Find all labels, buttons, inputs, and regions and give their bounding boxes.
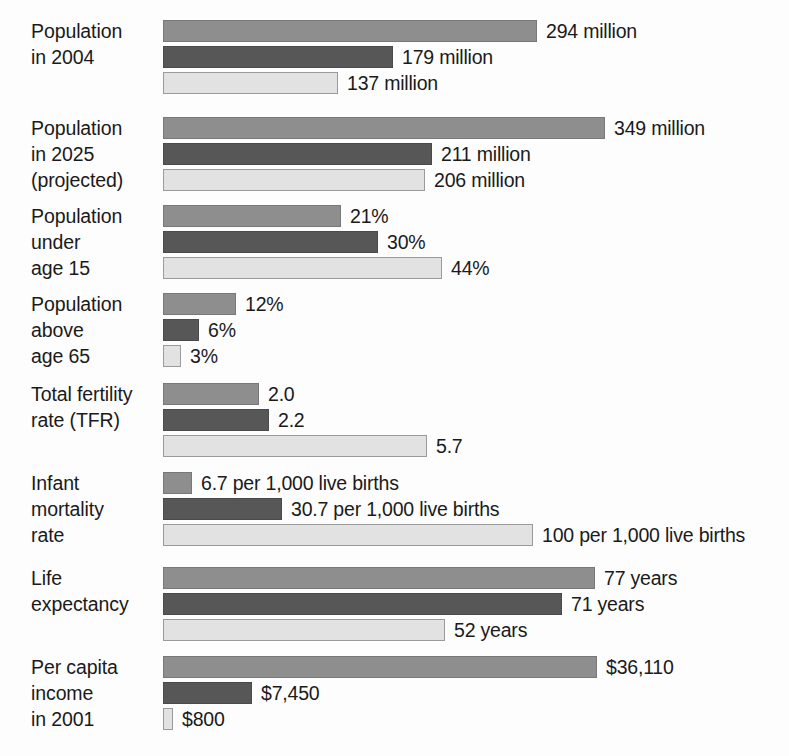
bar-value-label: 21% bbox=[350, 204, 388, 228]
bar-value-label: 2.0 bbox=[268, 382, 295, 406]
bar-value-label: 77 years bbox=[604, 566, 677, 590]
bar-series-1 bbox=[163, 293, 236, 315]
bar-value-label: 294 million bbox=[546, 19, 637, 43]
bar-value-label: 2.2 bbox=[278, 408, 305, 432]
bar-series-3 bbox=[163, 169, 425, 191]
bar-series-2 bbox=[163, 593, 562, 615]
bar-series-1 bbox=[163, 117, 605, 139]
bar-series-2 bbox=[163, 46, 393, 68]
bar-series-1 bbox=[163, 472, 192, 494]
bar-value-label: 44% bbox=[451, 256, 489, 280]
bar-value-label: $800 bbox=[182, 707, 225, 731]
bar-value-label: 12% bbox=[245, 292, 283, 316]
bar-value-label: 179 million bbox=[402, 45, 493, 69]
bar-series-2 bbox=[163, 498, 282, 520]
category-label: Per capita income in 2001 bbox=[31, 654, 157, 732]
bar-value-label: $36,110 bbox=[606, 655, 674, 679]
bar-value-label: 349 million bbox=[614, 116, 705, 140]
bar-value-label: 6.7 per 1,000 live births bbox=[201, 471, 399, 495]
bar-series-2 bbox=[163, 682, 252, 704]
bar-series-1 bbox=[163, 205, 341, 227]
bar-series-3 bbox=[163, 708, 173, 730]
category-label: Life expectancy bbox=[31, 565, 157, 617]
bar-value-label: 211 million bbox=[441, 142, 531, 166]
bar-series-3 bbox=[163, 345, 181, 367]
bar-series-2 bbox=[163, 409, 269, 431]
category-label: Infant mortality rate bbox=[31, 470, 157, 548]
bar-series-1 bbox=[163, 383, 259, 405]
bar-value-label: 100 per 1,000 live births bbox=[542, 523, 745, 547]
category-label: Population above age 65 bbox=[31, 291, 157, 369]
bar-value-label: 206 million bbox=[434, 168, 525, 192]
bar-value-label: 3% bbox=[190, 344, 218, 368]
category-label: Population in 2025 (projected) bbox=[31, 115, 157, 193]
bar-value-label: 6% bbox=[208, 318, 236, 342]
bar-series-2 bbox=[163, 143, 432, 165]
category-label: Population in 2004 bbox=[31, 18, 157, 70]
bar-series-1 bbox=[163, 567, 595, 589]
bar-series-3 bbox=[163, 72, 338, 94]
category-label: Total fertility rate (TFR) bbox=[31, 381, 157, 433]
bar-series-3 bbox=[163, 257, 442, 279]
bar-series-1 bbox=[163, 20, 537, 42]
bar-value-label: 52 years bbox=[454, 618, 527, 642]
bar-series-3 bbox=[163, 619, 445, 641]
bar-value-label: 30% bbox=[387, 230, 425, 254]
bar-value-label: 137 million bbox=[347, 71, 438, 95]
bar-series-3 bbox=[163, 524, 533, 546]
bar-value-label: 71 years bbox=[571, 592, 644, 616]
bar-series-2 bbox=[163, 231, 378, 253]
bar-series-3 bbox=[163, 435, 427, 457]
bar-series-2 bbox=[163, 319, 199, 341]
bar-value-label: 5.7 bbox=[436, 434, 463, 458]
category-label: Population under age 15 bbox=[31, 203, 157, 281]
bar-series-1 bbox=[163, 656, 597, 678]
bar-value-label: 30.7 per 1,000 live births bbox=[291, 497, 499, 521]
bar-value-label: $7,450 bbox=[261, 681, 319, 705]
demographic-comparison-bar-chart: Population in 2004294 million179 million… bbox=[0, 0, 789, 756]
